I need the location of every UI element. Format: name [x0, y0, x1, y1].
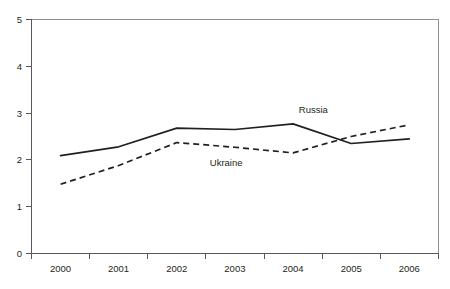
plot-frame — [31, 19, 438, 253]
line-chart: 0 1 2 3 4 5 2000 2001 2002 2003 2004 200… — [0, 0, 450, 289]
x-tick-label-2005: 2005 — [341, 263, 362, 274]
series-label-ukraine: Ukraine — [210, 157, 243, 168]
x-tick-label-2003: 2003 — [224, 263, 245, 274]
x-tick-label-2001: 2001 — [108, 263, 129, 274]
y-tick-label-4: 4 — [17, 61, 22, 72]
series-line-russia — [61, 124, 410, 156]
y-tick-label-2: 2 — [17, 154, 22, 165]
y-tick-label-5: 5 — [17, 14, 22, 25]
y-axis-ticks — [26, 20, 31, 254]
x-tick-label-2006: 2006 — [399, 263, 420, 274]
x-axis-labels: 2000 2001 2002 2003 2004 2005 2006 — [50, 263, 420, 274]
x-tick-label-2002: 2002 — [166, 263, 187, 274]
y-tick-label-1: 1 — [17, 201, 22, 212]
series-line-ukraine — [61, 125, 410, 184]
x-tick-label-2000: 2000 — [50, 263, 71, 274]
y-axis-labels: 0 1 2 3 4 5 — [17, 14, 22, 259]
y-tick-label-0: 0 — [17, 248, 22, 259]
series-label-russia: Russia — [299, 104, 329, 115]
chart-canvas: 0 1 2 3 4 5 2000 2001 2002 2003 2004 200… — [0, 0, 450, 289]
y-tick-label-3: 3 — [17, 108, 22, 119]
x-tick-label-2004: 2004 — [282, 263, 303, 274]
